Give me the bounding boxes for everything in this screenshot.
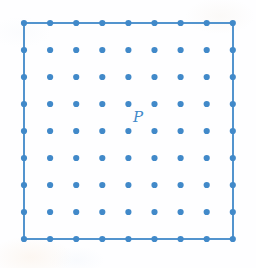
- lattice-point: [125, 236, 131, 242]
- lattice-dot-group: [21, 20, 236, 242]
- lattice-point: [178, 236, 184, 242]
- lattice-point: [73, 236, 79, 242]
- lattice-point: [204, 74, 210, 80]
- lattice-point: [73, 155, 79, 161]
- lattice-point: [47, 182, 53, 188]
- lattice-point: [125, 155, 131, 161]
- lattice-point: [21, 155, 27, 161]
- lattice-point: [230, 128, 236, 134]
- lattice-point: [47, 20, 53, 26]
- lattice-point: [125, 47, 131, 53]
- lattice-point: [204, 209, 210, 215]
- lattice-point: [21, 101, 27, 107]
- lattice-point: [204, 236, 210, 242]
- lattice-point: [178, 47, 184, 53]
- lattice-point: [73, 74, 79, 80]
- lattice-point: [151, 20, 157, 26]
- lattice-point: [151, 128, 157, 134]
- point-label-p: P: [133, 110, 143, 125]
- lattice-point: [230, 236, 236, 242]
- lattice-point: [125, 209, 131, 215]
- lattice-point: [178, 128, 184, 134]
- lattice-point: [73, 47, 79, 53]
- lattice-point: [204, 155, 210, 161]
- lattice-point: [99, 20, 105, 26]
- lattice-point: [178, 155, 184, 161]
- lattice-point: [47, 74, 53, 80]
- lattice-point: [125, 74, 131, 80]
- lattice-point: [47, 155, 53, 161]
- lattice-point: [151, 182, 157, 188]
- lattice-point: [99, 209, 105, 215]
- lattice-point: [204, 20, 210, 26]
- lattice-point: [230, 47, 236, 53]
- lattice-point: [99, 74, 105, 80]
- lattice-point: [99, 128, 105, 134]
- lattice-point: [230, 155, 236, 161]
- lattice-point: [178, 209, 184, 215]
- lattice-point: [47, 209, 53, 215]
- lattice-point: [204, 182, 210, 188]
- lattice-point: [178, 74, 184, 80]
- lattice-point: [230, 209, 236, 215]
- lattice-point-p: [125, 128, 131, 134]
- lattice-point: [178, 20, 184, 26]
- lattice-point: [204, 47, 210, 53]
- lattice-point: [21, 236, 27, 242]
- lattice-point: [21, 20, 27, 26]
- lattice-point: [151, 101, 157, 107]
- lattice-point: [230, 20, 236, 26]
- lattice-point: [151, 47, 157, 53]
- lattice-point: [47, 236, 53, 242]
- lattice-point: [73, 182, 79, 188]
- lattice-point: [21, 209, 27, 215]
- lattice-point: [21, 182, 27, 188]
- lattice-point: [47, 101, 53, 107]
- lattice-point: [73, 209, 79, 215]
- lattice-point: [151, 155, 157, 161]
- lattice-point: [204, 128, 210, 134]
- lattice-point: [21, 128, 27, 134]
- lattice-point: [99, 101, 105, 107]
- lattice-point: [73, 128, 79, 134]
- lattice-point: [99, 236, 105, 242]
- lattice-point: [178, 182, 184, 188]
- lattice-point: [99, 47, 105, 53]
- lattice-figure: P: [0, 0, 256, 268]
- lattice-point: [151, 236, 157, 242]
- lattice-diagram: [0, 0, 256, 268]
- lattice-point: [230, 74, 236, 80]
- lattice-point: [151, 74, 157, 80]
- lattice-point: [204, 101, 210, 107]
- lattice-point: [178, 101, 184, 107]
- lattice-point: [47, 128, 53, 134]
- lattice-point: [21, 74, 27, 80]
- lattice-point: [99, 182, 105, 188]
- lattice-point: [125, 101, 131, 107]
- lattice-point: [21, 47, 27, 53]
- lattice-point: [230, 182, 236, 188]
- lattice-point: [99, 155, 105, 161]
- lattice-point: [230, 101, 236, 107]
- lattice-point: [73, 101, 79, 107]
- lattice-point: [125, 20, 131, 26]
- lattice-point: [73, 20, 79, 26]
- lattice-point: [47, 47, 53, 53]
- lattice-point: [125, 182, 131, 188]
- lattice-point: [151, 209, 157, 215]
